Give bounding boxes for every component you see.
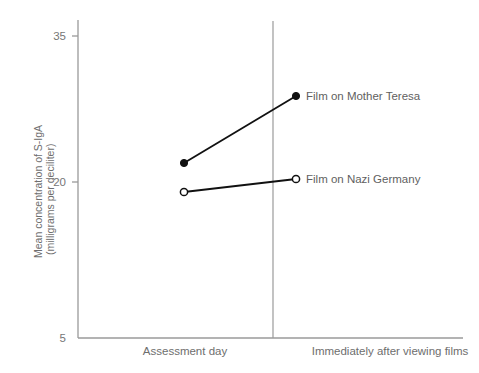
series-nazi-germany-line xyxy=(184,179,296,192)
series-mother-teresa-point-1 xyxy=(180,159,187,166)
y-axis-title-line2: (milligrams per deciliter) xyxy=(44,144,56,255)
y-axis-title-line1: Mean concentration of S-IgA xyxy=(32,125,44,258)
line-chart: 35 20 5 Mean concentration of S-IgA (mil… xyxy=(0,0,479,373)
series-label-mother-teresa: Film on Mother Teresa xyxy=(306,90,421,102)
chart-container: 35 20 5 Mean concentration of S-IgA (mil… xyxy=(0,0,479,373)
series-nazi-germany-point-2 xyxy=(292,175,299,182)
x-tick-label-assessment-day: Assessment day xyxy=(143,345,228,357)
series-label-nazi-germany: Film on Nazi Germany xyxy=(306,173,421,185)
series-nazi-germany-point-1 xyxy=(180,188,187,195)
y-tick-label-5: 5 xyxy=(60,332,66,344)
series-mother-teresa-point-2 xyxy=(292,92,299,99)
series-mother-teresa-line xyxy=(184,96,296,163)
y-tick-label-35: 35 xyxy=(53,30,66,42)
x-tick-label-after-viewing: Immediately after viewing films xyxy=(312,345,469,357)
